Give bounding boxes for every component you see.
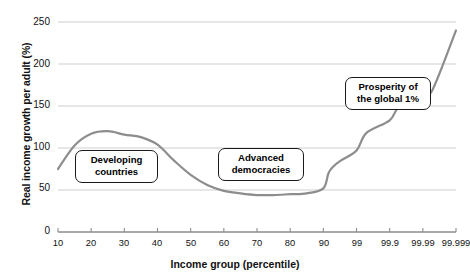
y-tick-0: 0 xyxy=(16,225,50,236)
x-tick-90: 90 xyxy=(319,238,329,248)
income-growth-chart: Real income growth per adult (%) 250 200… xyxy=(0,0,470,279)
y-tick-150: 150 xyxy=(16,99,50,110)
x-tick-60: 60 xyxy=(219,238,229,248)
y-tick-250: 250 xyxy=(16,16,50,27)
annotation-advanced-democracies: Advanced democracies xyxy=(218,148,304,181)
y-axis-label: Real income growth per adult (%) xyxy=(20,14,32,234)
chart-plot-area xyxy=(0,0,470,279)
x-tick-50: 50 xyxy=(186,238,196,248)
x-tick-99: 99 xyxy=(352,238,362,248)
x-tick-99-999: 99.999 xyxy=(442,238,470,248)
y-tick-100: 100 xyxy=(16,141,50,152)
x-tick-99-9: 99.9 xyxy=(381,238,399,248)
x-tick-20: 20 xyxy=(86,238,96,248)
x-tick-70: 70 xyxy=(252,238,262,248)
x-tick-30: 30 xyxy=(119,238,129,248)
x-tick-99-99: 99.99 xyxy=(411,238,434,248)
x-tick-40: 40 xyxy=(152,238,162,248)
annotation-prosperity-global-1-percent: Prosperity of the global 1% xyxy=(345,77,431,110)
x-tick-10: 10 xyxy=(53,238,63,248)
annotation-developing-countries: Developing countries xyxy=(75,150,158,183)
y-tick-200: 200 xyxy=(16,58,50,69)
x-axis-label: Income group (percentile) xyxy=(0,258,470,270)
x-tick-80: 80 xyxy=(285,238,295,248)
y-tick-50: 50 xyxy=(16,182,50,193)
